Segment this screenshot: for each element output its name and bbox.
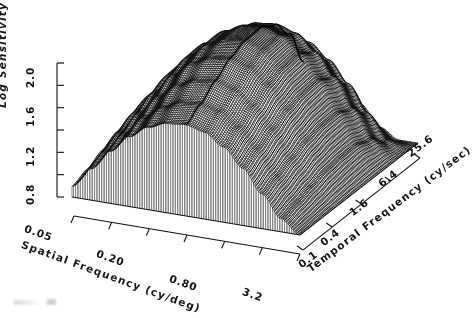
scan-artifact-speck bbox=[47, 299, 56, 305]
scan-artifact-smudge bbox=[14, 300, 40, 305]
y-axis-title: Log Sensitivity bbox=[0, 2, 8, 108]
y-axis-tick-1: 1.2 bbox=[24, 146, 36, 167]
y-axis-tick-0: 0.8 bbox=[24, 184, 36, 205]
y-axis-tick-2: 1.6 bbox=[24, 106, 36, 127]
y-axis-tick-3: 2.0 bbox=[24, 67, 36, 88]
